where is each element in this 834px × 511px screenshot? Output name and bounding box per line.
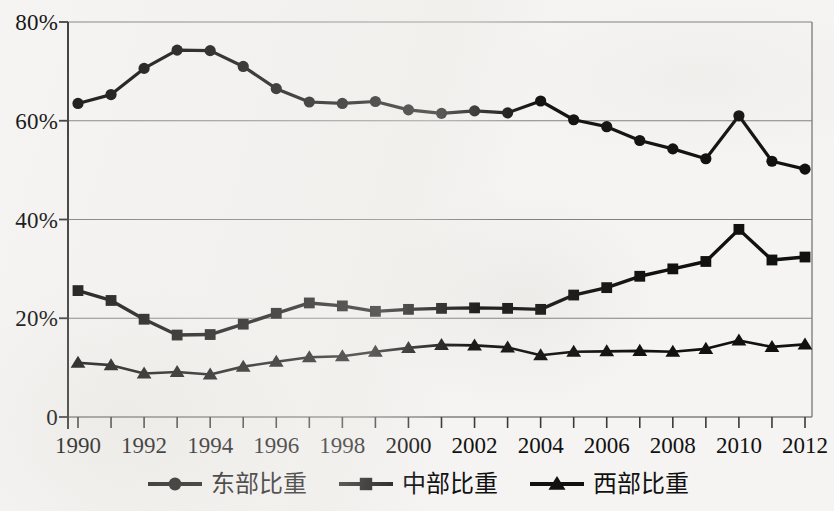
data-point-circle [502,107,513,118]
legend-label: 中部比重 [402,472,498,496]
data-point-circle [304,96,315,107]
legend-entry[interactable]: 西部比重 [528,472,689,496]
data-point-square [403,304,414,315]
x-axis-tick-label: 2008 [650,434,696,457]
data-point-circle [436,108,447,119]
data-point-square [337,301,348,312]
data-point-square [734,224,745,235]
data-point-square [172,330,183,341]
x-axis-tick-label: 2002 [452,434,498,457]
legend-entry[interactable]: 东部比重 [146,472,307,496]
data-point-circle [403,104,414,115]
data-point-circle [168,478,181,491]
x-axis-tick-label: 1996 [253,434,299,457]
x-axis-tick-label: 2004 [518,434,564,457]
data-point-square [271,308,282,319]
data-point-circle [370,96,381,107]
data-point-circle [568,114,579,125]
series-2 [73,224,811,340]
data-point-circle [700,153,711,164]
data-point-square [436,303,447,314]
data-point-square [238,319,249,330]
data-point-circle [535,95,546,106]
data-point-square [73,285,84,296]
data-point-circle [337,98,348,109]
data-point-triangle [798,337,813,349]
data-point-circle [601,121,612,132]
data-point-square [667,263,678,274]
data-point-square [700,256,711,267]
data-point-circle [105,89,116,100]
legend-entry[interactable]: 中部比重 [337,472,498,496]
data-point-triangle [732,333,747,345]
data-point-square [601,282,612,293]
data-point-circle [634,135,645,146]
data-point-circle [667,143,678,154]
triangle-marker-icon [528,472,586,496]
x-axis-tick-label: 1998 [319,434,365,457]
data-point-square [139,314,150,325]
x-axis-tick-label: 2000 [385,434,431,457]
data-point-circle [469,105,480,116]
data-point-square [568,290,579,301]
legend-label: 东部比重 [211,472,307,496]
data-point-circle [138,63,149,74]
data-point-circle [238,61,249,72]
data-point-circle [72,98,83,109]
series-1 [72,45,810,175]
data-point-square [304,298,315,309]
data-point-square [800,252,811,263]
circle-marker-icon [146,472,204,496]
x-axis-tick-label: 1994 [187,434,233,457]
chart-legend: 东部比重中部比重西部比重 [0,472,834,496]
data-point-square [370,306,381,317]
data-point-square [469,302,480,313]
square-marker-icon [337,472,395,496]
data-point-square [359,478,371,490]
x-axis-tick-label: 1992 [121,434,167,457]
data-point-square [535,304,546,315]
x-axis-tick-label: 2012 [782,434,828,457]
legend-label: 西部比重 [593,472,689,496]
line-chart: 020%40%60%80% 19901992199419961998200020… [0,0,834,511]
data-point-circle [172,45,183,56]
data-point-circle [205,45,216,56]
series-line [78,229,805,335]
data-point-square [634,271,645,282]
data-point-circle [733,110,744,121]
data-point-triangle [71,356,86,368]
data-point-circle [766,156,777,167]
data-point-circle [799,164,810,175]
data-point-square [106,295,117,306]
data-point-square [502,303,513,314]
data-point-square [205,329,216,340]
data-point-circle [271,83,282,94]
x-axis-tick-label: 2006 [584,434,630,457]
data-point-square [767,255,778,266]
x-axis-tick-label: 1990 [55,434,101,457]
x-axis-tick-label: 2010 [716,434,762,457]
